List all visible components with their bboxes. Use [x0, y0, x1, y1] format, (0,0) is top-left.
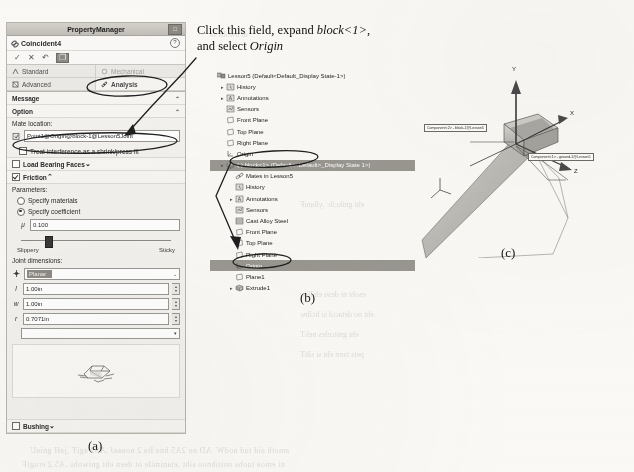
- chevron-up-icon[interactable]: ⌃: [47, 173, 53, 181]
- joint-type-dropdown[interactable]: Planar ⌄: [24, 268, 180, 280]
- section-bushing[interactable]: Bushing ⌄: [7, 419, 185, 433]
- pin-icon[interactable]: □: [168, 24, 182, 35]
- tab-advanced[interactable]: Advanced: [7, 78, 96, 91]
- load-bearing-faces-checkbox[interactable]: [12, 160, 20, 168]
- tree-item[interactable]: Right Plane: [210, 137, 415, 148]
- tree-item[interactable]: Front Plane: [210, 115, 415, 126]
- sensors-icon: [226, 105, 235, 113]
- length-field[interactable]: 1.00in: [23, 283, 169, 295]
- tab-analysis-label: Analysis: [111, 81, 138, 88]
- mate-action-buttons: ✓ ✕ ↶ ❐: [7, 51, 185, 65]
- undo-button[interactable]: ↶: [42, 54, 49, 62]
- friction-slider[interactable]: [21, 236, 171, 246]
- bleed-through-text: pets txen eht si sihT: [300, 350, 364, 359]
- chevron-up-icon[interactable]: ⌃: [175, 108, 180, 115]
- expand-twisty-icon[interactable]: ▸: [219, 162, 226, 168]
- specify-materials-row[interactable]: Specify materials: [7, 195, 185, 206]
- tree-item[interactable]: ▸(-) block<1> (Default<<Default>_Display…: [210, 160, 415, 171]
- bushing-checkbox[interactable]: [12, 422, 20, 430]
- tree-item[interactable]: Sensors: [210, 204, 415, 215]
- slider-track: [21, 240, 171, 241]
- panel-title: PropertyManager: [67, 26, 125, 33]
- chevron-down-icon[interactable]: ▾: [174, 330, 177, 336]
- joint-dimensions-label: Joint dimensions:: [7, 255, 185, 266]
- chevron-down-icon[interactable]: ⌄: [85, 160, 91, 168]
- specify-coefficient-radio[interactable]: [17, 208, 25, 216]
- instruction-line2-pre: and select: [197, 39, 250, 53]
- callout-block[interactable]: Component<2> - block-1@Lesson5: [424, 124, 487, 132]
- parameters-label: Parameters:: [7, 184, 185, 195]
- tab-advanced-label: Advanced: [22, 81, 51, 88]
- chevron-down-icon[interactable]: ⌄: [49, 422, 55, 430]
- expand-twisty-icon[interactable]: ▸: [219, 95, 226, 101]
- tree-item-label: Origin: [246, 263, 262, 269]
- caption-c: (c): [501, 245, 515, 261]
- radius-stepper[interactable]: ▴▾: [172, 313, 180, 325]
- instruction-line1-pre: Click this field, expand: [197, 23, 317, 37]
- tree-item[interactable]: Right Plane: [210, 249, 415, 260]
- mate-location-row: Point1@Origin@block-1@Lesson5Joint: [7, 129, 185, 145]
- expand-twisty-icon[interactable]: ▸: [219, 84, 226, 90]
- sensors-icon: [235, 206, 244, 214]
- section-load-bearing-faces[interactable]: Load Bearing Faces ⌄: [7, 157, 185, 171]
- tab-standard[interactable]: Standard: [7, 65, 96, 78]
- chevron-down-icon[interactable]: ⌄: [173, 271, 177, 277]
- section-option[interactable]: Option ⌃: [7, 105, 185, 118]
- expand-twisty-icon[interactable]: ▸: [228, 285, 235, 291]
- radius-field[interactable]: 0.7071in: [23, 313, 169, 325]
- tree-item[interactable]: Top Plane: [210, 238, 415, 249]
- tree-item[interactable]: Origin: [210, 148, 415, 159]
- tree-item[interactable]: Lesson5 (Default<Default_Display State-1…: [210, 70, 415, 81]
- joint-type-row: Planar ⌄: [7, 266, 185, 281]
- tree-item[interactable]: History: [210, 182, 415, 193]
- plane-icon: [235, 239, 244, 247]
- section-message[interactable]: Message ⌃: [7, 92, 185, 105]
- width-stepper[interactable]: ▴▾: [172, 298, 180, 310]
- load-bearing-faces-label: Load Bearing Faces: [23, 161, 85, 168]
- tree-item-label: History: [246, 184, 265, 190]
- bleed-through-text: ni emoa tuoba noitibnoo siht ,etanimile …: [22, 460, 285, 469]
- help-icon[interactable]: ?: [170, 38, 180, 48]
- length-stepper[interactable]: ▴▾: [172, 283, 180, 295]
- cancel-button[interactable]: ✕: [28, 54, 35, 62]
- tab-standard-label: Standard: [22, 68, 48, 75]
- mates-icon: [235, 172, 244, 180]
- specify-materials-radio[interactable]: [17, 197, 25, 205]
- expand-twisty-icon[interactable]: ▸: [228, 196, 235, 202]
- ok-button[interactable]: ✓: [14, 54, 21, 62]
- tree-item[interactable]: ▸AAnnotations: [210, 193, 415, 204]
- width-field[interactable]: 1.00in: [23, 298, 169, 310]
- tab-mechanical[interactable]: Mechanical: [96, 65, 185, 78]
- slider-knob[interactable]: [45, 236, 53, 248]
- mate-location-input[interactable]: Point1@Origin@block-1@Lesson5Joint: [24, 130, 180, 142]
- tree-item[interactable]: ▸AAnnotations: [210, 92, 415, 103]
- callout-ground[interactable]: Component<1> - ground-1@Lesson5: [528, 153, 594, 161]
- extra-dropdown[interactable]: ▾: [21, 328, 180, 339]
- instruction-line1-post: ,: [367, 23, 370, 37]
- tree-item[interactable]: Top Plane: [210, 126, 415, 137]
- shrink-fit-checkbox[interactable]: [19, 147, 27, 155]
- shrink-fit-row[interactable]: Treat interference as a shrink/press fit: [7, 145, 185, 157]
- axis-z-label: Z: [574, 168, 578, 174]
- tree-item[interactable]: Front Plane: [210, 227, 415, 238]
- tree-item[interactable]: Cast Alloy Steel: [210, 215, 415, 226]
- width-symbol: w: [12, 300, 20, 307]
- bleed-through-text: eht no detacol si hcihw: [300, 310, 374, 319]
- specify-coefficient-row[interactable]: Specify coefficient: [7, 206, 185, 217]
- specify-materials-label: Specify materials: [28, 197, 78, 204]
- tree-item[interactable]: Plane1: [210, 271, 415, 282]
- tree-item-label: Cast Alloy Steel: [246, 218, 288, 224]
- mate-options-button[interactable]: ❐: [56, 53, 69, 63]
- tree-item[interactable]: Mates in Lesson5: [210, 171, 415, 182]
- property-manager-panel: PropertyManager □ Coincident4 ? ✓ ✕ ↶ ❐ …: [6, 22, 186, 434]
- coefficient-input[interactable]: 0.100: [30, 219, 180, 231]
- tree-item[interactable]: ▸History: [210, 81, 415, 92]
- section-friction[interactable]: Friction ⌃: [7, 171, 185, 184]
- tree-item[interactable]: Origin: [210, 260, 415, 271]
- tab-analysis[interactable]: Analysis: [96, 78, 185, 91]
- chevron-up-icon[interactable]: ⌃: [175, 95, 180, 102]
- tree-item[interactable]: Sensors: [210, 104, 415, 115]
- friction-checkbox[interactable]: [12, 173, 20, 181]
- mate-header: Coincident4 ?: [7, 36, 185, 51]
- joint-type-value: Planar: [27, 270, 52, 278]
